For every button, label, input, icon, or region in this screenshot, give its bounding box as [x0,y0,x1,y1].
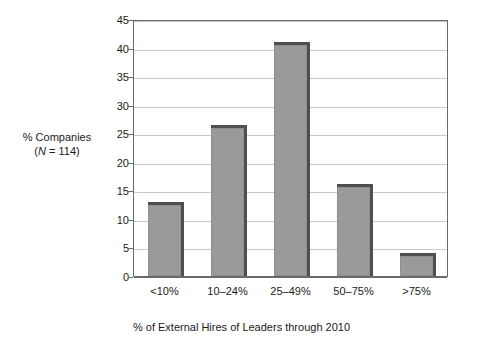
bar [274,42,310,276]
bar-series [134,21,447,276]
bar [148,202,184,276]
y-axis-tick-labels: 051015202530354045 [103,20,129,277]
y-tick-label-35: 35 [105,72,129,83]
bar-body [274,45,307,276]
y-tick-label-15: 15 [105,186,129,197]
x-tick-label-1: 10–24% [207,285,247,298]
bar [337,184,373,276]
y-tick-label-20: 20 [105,157,129,168]
x-tick-label-3: 50–75% [333,285,373,298]
y-axis-title-n-value: = 114) [46,145,80,157]
plot-area [133,20,448,277]
x-axis-title: % of External Hires of Leaders through 2… [0,320,483,334]
x-axis-tick-labels: <10%10–24%25–49%50–75%>75% [133,285,448,301]
y-tick-label-10: 10 [105,214,129,225]
bar [211,125,247,276]
bar [400,253,436,276]
y-axis-title-n-symbol: N [38,145,46,157]
x-tick-label-2: 25–49% [270,285,310,298]
bar-body [148,205,181,276]
bar-body [400,256,433,276]
gridline-0 [134,277,447,278]
y-tick-label-45: 45 [105,15,129,26]
x-tick-label-4: >75% [402,285,430,298]
y-tick-label-30: 30 [105,100,129,111]
y-tick-mark-0 [128,277,133,278]
bar-body [337,187,370,276]
bar-body [211,128,244,276]
y-axis-title-line1: % Companies [8,130,106,144]
y-tick-label-0: 0 [105,272,129,283]
y-tick-label-40: 40 [105,43,129,54]
y-tick-label-25: 25 [105,129,129,140]
y-axis-title: % Companies (N = 114) [8,130,106,158]
y-tick-label-5: 5 [105,243,129,254]
y-axis-title-line2: (N = 114) [8,144,106,158]
x-tick-label-0: <10% [150,285,178,298]
